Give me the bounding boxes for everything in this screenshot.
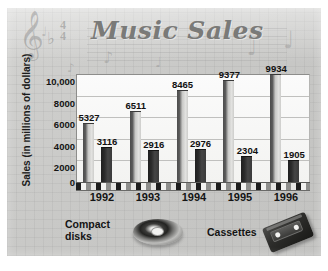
bar-group-1994: 84652976: [171, 75, 218, 182]
y-tick-label: 2000: [21, 163, 75, 172]
bar-value-label-cd-1995: 9377: [212, 70, 246, 80]
y-tick-label: 6000: [21, 120, 75, 129]
x-axis-base: [76, 182, 310, 191]
legend-label-compact-disks-line1: Compact: [65, 218, 125, 230]
y-tick-label: 10,000: [21, 77, 75, 86]
y-axis-ticks: 10,000 8000 6000 4000 2000 0: [21, 74, 75, 192]
bar-cassette-1992[interactable]: [101, 147, 112, 182]
bar-cassette-1993[interactable]: [148, 150, 159, 182]
bar-value-label-cd-1994: 8465: [166, 80, 200, 90]
bar-cd-1995[interactable]: [223, 80, 234, 182]
bar-cd-1996[interactable]: [270, 74, 281, 182]
legend-label-compact-disks: Compact disks: [65, 218, 125, 242]
x-tick-label-1993: 1993: [125, 191, 171, 203]
flat-sign-icon: ♭: [47, 28, 55, 48]
bar-group-1993: 65112916: [124, 75, 171, 182]
bar-value-label-cd-1996: 9934: [259, 64, 293, 74]
bar-group-1992: 53273116: [77, 75, 124, 182]
bar-value-label-cassette-1993: 2916: [137, 140, 171, 150]
cassette-tape-icon: [257, 204, 320, 256]
chart-title: Music Sales: [91, 16, 291, 45]
bar-cassette-1994[interactable]: [195, 149, 206, 182]
x-tick-label-1992: 1992: [79, 191, 125, 203]
bar-value-label-cassette-1995: 2304: [230, 146, 264, 156]
bar-value-label-cd-1992: 5327: [72, 113, 106, 123]
bar-cassette-1995[interactable]: [241, 156, 252, 182]
bar-value-label-cassette-1994: 2976: [184, 139, 218, 149]
bar-group-1995: 93772304: [217, 75, 264, 182]
music-note-icon: ♩: [41, 22, 47, 42]
chart-card: 𝄞 ♭ 4 4 ♩ ♪ ♩ ♩ ♩ ♪ Music Sales Sales (i…: [7, 8, 321, 256]
plot-area: 5327311665112916846529769377230499341905: [76, 74, 310, 182]
y-tick-label: 4000: [21, 142, 75, 151]
bar-cd-1992[interactable]: [83, 123, 94, 182]
bar-cassette-1996[interactable]: [288, 160, 299, 182]
x-axis-labels: 1992 1993 1994 1995 1996: [76, 191, 310, 207]
legend: Compact disks Cassettes: [7, 208, 321, 256]
x-tick-label-1995: 1995: [217, 191, 263, 203]
bar-value-label-cd-1993: 6511: [119, 101, 153, 111]
time-signature-bottom: 4: [60, 31, 66, 42]
x-tick-label-1994: 1994: [171, 191, 217, 203]
y-tick-label: 8000: [21, 99, 75, 108]
compact-disk-hole: [152, 228, 163, 235]
x-tick-label-1996: 1996: [263, 191, 309, 203]
y-tick-label: 0: [21, 178, 75, 187]
bar-group-1996: 99341905: [264, 75, 311, 182]
bar-value-label-cassette-1996: 1905: [277, 150, 311, 160]
music-note-icon: ♩: [155, 52, 162, 72]
bar-cd-1994[interactable]: [177, 90, 188, 182]
music-note-icon: ♪: [103, 48, 113, 68]
bar-value-label-cassette-1992: 3116: [90, 137, 124, 147]
compact-disk-icon: [131, 216, 185, 250]
time-signature: 4 4: [60, 20, 66, 42]
bar-series-container: 5327311665112916846529769377230499341905: [77, 75, 309, 182]
legend-label-compact-disks-line2: disks: [65, 230, 125, 242]
staff-line: [87, 60, 287, 61]
